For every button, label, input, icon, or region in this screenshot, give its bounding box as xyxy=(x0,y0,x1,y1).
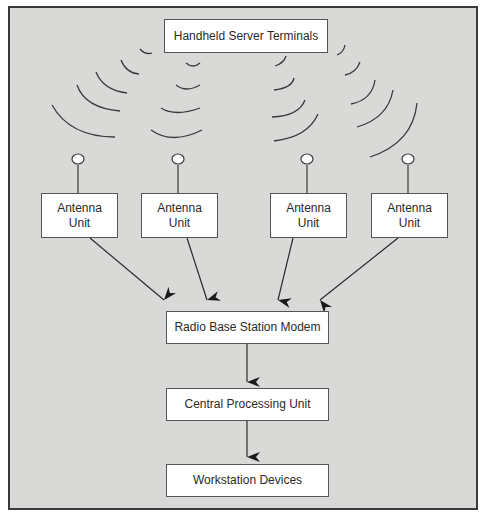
node-label-line1: Antenna xyxy=(286,201,331,216)
node-label-line2: Unit xyxy=(387,216,432,231)
node-label-line1: Antenna xyxy=(157,201,202,216)
connectors-and-waves xyxy=(0,0,486,514)
node-label-line2: Unit xyxy=(286,216,331,231)
node-handheld-server-terminals: Handheld Server Terminals xyxy=(164,19,328,53)
radio-wave-icons xyxy=(52,45,417,157)
node-antenna-unit-4: AntennaUnit xyxy=(371,193,448,238)
node-label-line2: Unit xyxy=(57,216,102,231)
node-label: Central Processing Unit xyxy=(184,397,310,412)
node-label: Radio Base Station Modem xyxy=(174,320,320,335)
node-label: Handheld Server Terminals xyxy=(174,29,319,44)
node-label: Workstation Devices xyxy=(193,473,302,488)
node-label-line1: Antenna xyxy=(57,201,102,216)
node-antenna-unit-3: AntennaUnit xyxy=(270,193,347,238)
node-radio-base-station-modem: Radio Base Station Modem xyxy=(166,311,329,344)
node-antenna-unit-1: AntennaUnit xyxy=(41,193,118,238)
antenna-icons xyxy=(72,154,414,193)
node-label-line2: Unit xyxy=(157,216,202,231)
node-label-line1: Antenna xyxy=(387,201,432,216)
arrow-connectors xyxy=(90,238,398,457)
node-workstation-devices: Workstation Devices xyxy=(166,464,329,497)
node-central-processing-unit: Central Processing Unit xyxy=(166,388,329,421)
node-antenna-unit-2: AntennaUnit xyxy=(141,193,218,238)
